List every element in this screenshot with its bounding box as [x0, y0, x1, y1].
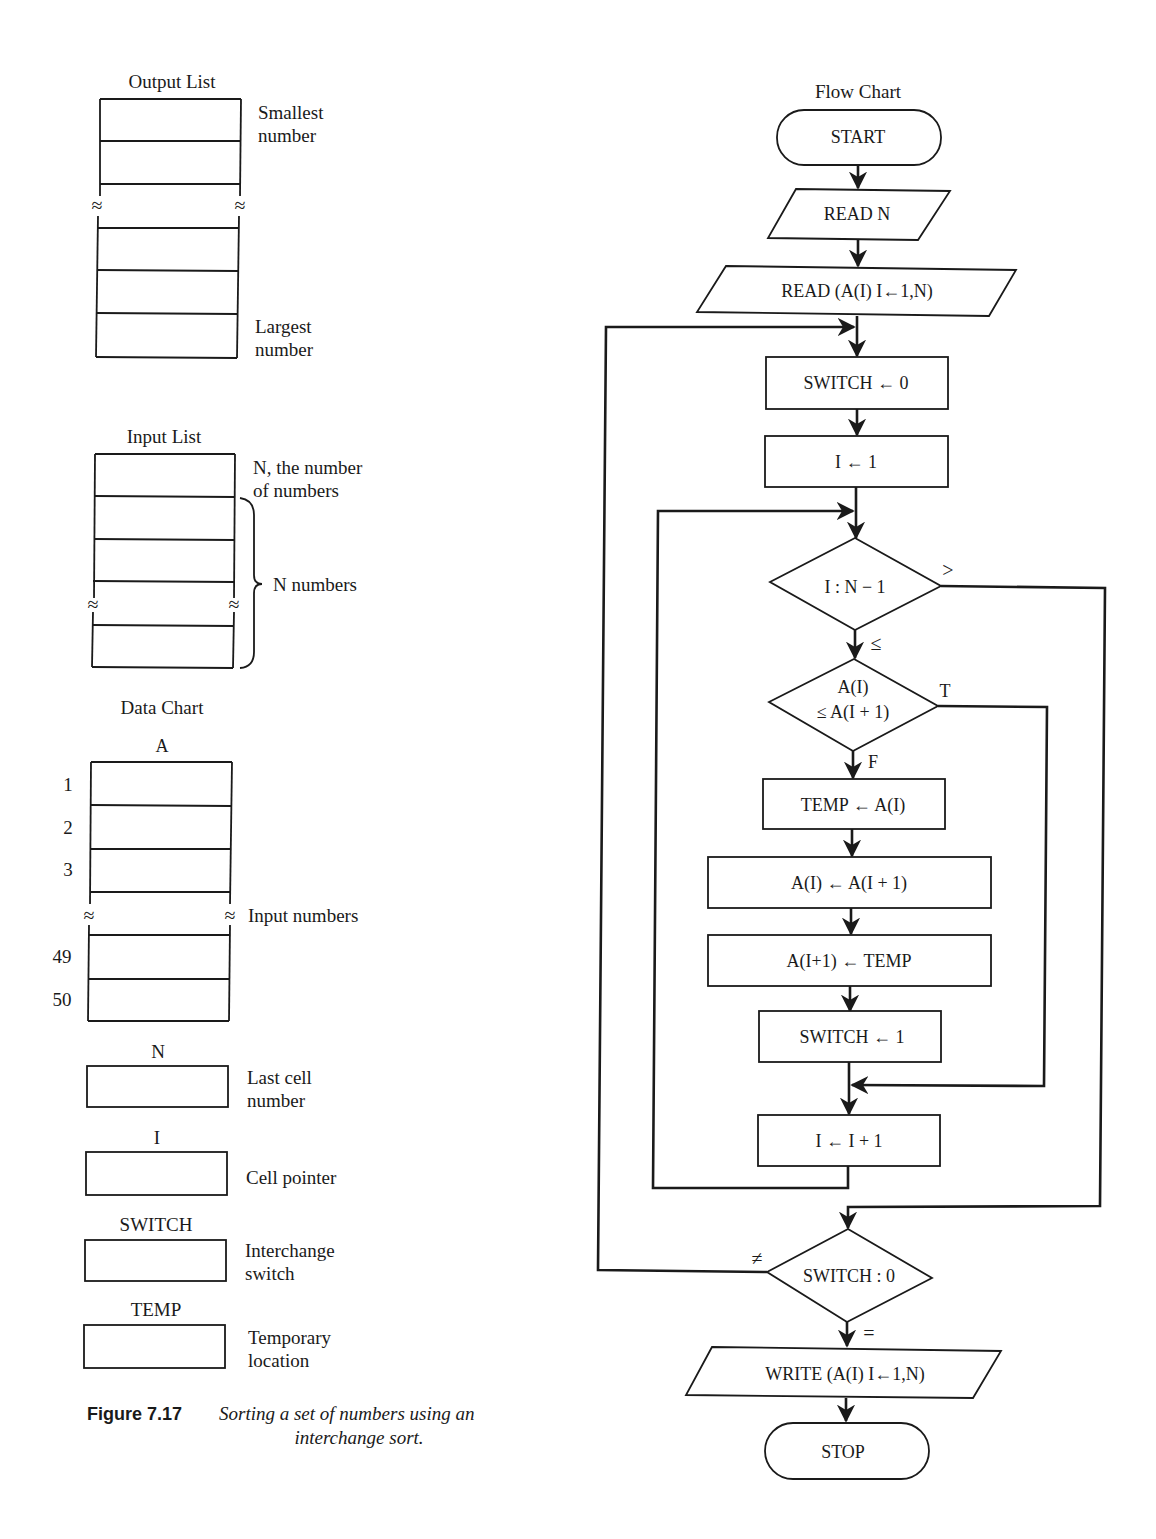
decision-compare-line2: ≤ A(I + 1) [817, 702, 890, 723]
figure-7-17: Output List ≈ ≈ Smallest number Largest … [0, 0, 1156, 1539]
variable-switch-label-line2: switch [245, 1263, 295, 1284]
greater-than-label: > [942, 559, 953, 581]
variable-n-label-line2: number [247, 1090, 306, 1111]
true-label: T [940, 681, 951, 701]
data-chart-title: Data Chart [121, 697, 205, 718]
break-icon: ≈ [235, 194, 246, 216]
equal-label: = [863, 1322, 874, 1344]
input-list-cells [92, 454, 235, 668]
decision-i-vs-n[interactable]: I : N − 1 > ≤ [770, 538, 954, 654]
input-numbers-label: Input numbers [248, 905, 358, 926]
a-next-assign-process[interactable]: A(I+1) ← TEMP [708, 935, 991, 986]
variable-switch-name: SWITCH [120, 1214, 193, 1235]
variable-i-cell [86, 1152, 227, 1195]
read-n-label: READ N [824, 204, 891, 224]
n-label-line2: of numbers [253, 480, 339, 501]
caption-line1: Sorting a set of numbers using an [219, 1403, 474, 1424]
figure-number: Figure 7.17 [87, 1404, 182, 1424]
flow-chart: Flow Chart ST [598, 81, 1105, 1479]
read-array-input[interactable]: READ (A(I) I←1,N) [697, 266, 1016, 316]
variable-i-name: I [154, 1127, 160, 1148]
index-3: 3 [63, 859, 73, 880]
switch-zero-label: SWITCH ← 0 [804, 373, 909, 393]
variable-i-label: Cell pointer [246, 1167, 337, 1188]
flow-chart-title: Flow Chart [815, 81, 902, 102]
figure-caption: Figure 7.17 Sorting a set of numbers usi… [87, 1403, 474, 1448]
decision-i-label: I : N − 1 [824, 577, 885, 597]
switch-one-label: SWITCH ← 1 [800, 1027, 905, 1047]
output-list: Output List ≈ ≈ Smallest number Largest … [92, 71, 325, 360]
i-increment-label: I ← I + 1 [815, 1131, 882, 1151]
variable-n-label-line1: Last cell [247, 1067, 312, 1088]
input-list: Input List ≈ ≈ N, the number of numbers … [88, 426, 363, 668]
write-array-label: WRITE (A(I) I←1,N) [765, 1364, 924, 1385]
index-2: 2 [63, 817, 73, 838]
variable-switch-label-line1: Interchange [245, 1240, 335, 1261]
variable-switch: SWITCH Interchange switch [85, 1214, 335, 1284]
largest-label-line1: Largest [255, 316, 312, 337]
not-equal-label: ≠ [752, 1247, 763, 1269]
decision-compare-line1: A(I) [838, 677, 869, 698]
i-one-label: I ← 1 [835, 452, 877, 472]
a-next-assign-label: A(I+1) ← TEMP [787, 951, 912, 972]
caption-line2: interchange sort. [294, 1427, 423, 1448]
stop-terminal[interactable]: STOP [765, 1423, 929, 1479]
variable-switch-cell [85, 1240, 226, 1281]
decision-compare[interactable]: A(I) ≤ A(I + 1) T F [769, 659, 951, 772]
read-array-label: READ (A(I) I←1,N) [781, 281, 932, 302]
index-50: 50 [53, 989, 72, 1010]
break-icon: ≈ [92, 194, 103, 216]
input-list-title: Input List [127, 426, 202, 447]
array-a-cells [88, 762, 232, 1021]
smallest-label-line2: number [258, 125, 317, 146]
array-a-label: A [156, 736, 169, 756]
variable-i: I Cell pointer [86, 1127, 337, 1195]
temp-assign-label: TEMP ← A(I) [801, 795, 905, 816]
largest-label-line2: number [255, 339, 314, 360]
variable-n: N Last cell number [87, 1041, 312, 1111]
variable-n-cell [87, 1066, 228, 1107]
i-one-process[interactable]: I ← 1 [765, 436, 948, 487]
n-numbers-label: N numbers [273, 574, 357, 595]
variable-temp-name: TEMP [131, 1299, 182, 1320]
switch-zero-process[interactable]: SWITCH ← 0 [766, 357, 948, 409]
decision-switch[interactable]: SWITCH : 0 ≠ = [752, 1229, 932, 1344]
decision-switch-label: SWITCH : 0 [803, 1266, 895, 1286]
less-equal-label: ≤ [871, 632, 882, 654]
variable-temp-cell [84, 1325, 225, 1368]
false-label: F [868, 752, 878, 772]
output-list-title: Output List [128, 71, 216, 92]
break-icon: ≈ [84, 904, 95, 926]
stop-label: STOP [821, 1442, 865, 1462]
variable-n-name: N [151, 1041, 165, 1062]
variable-temp-label-line1: Temporary [248, 1327, 332, 1348]
index-1: 1 [63, 774, 73, 795]
break-icon: ≈ [229, 593, 240, 615]
output-list-cells [96, 99, 241, 358]
break-icon: ≈ [88, 593, 99, 615]
start-label: START [831, 127, 885, 147]
start-terminal[interactable]: START [777, 110, 941, 165]
data-chart: Data Chart A 1 2 3 49 50 ≈ ≈ Input numbe… [53, 697, 359, 1371]
read-n-input[interactable]: READ N [768, 189, 950, 240]
temp-assign-process[interactable]: TEMP ← A(I) [763, 779, 945, 829]
a-assign-label: A(I) ← A(I + 1) [791, 873, 907, 894]
break-icon: ≈ [225, 904, 236, 926]
index-49: 49 [53, 946, 72, 967]
n-label-line1: N, the number [253, 457, 363, 478]
write-array-output[interactable]: WRITE (A(I) I←1,N) [686, 1347, 1001, 1398]
i-increment-process[interactable]: I ← I + 1 [758, 1115, 940, 1166]
variable-temp: TEMP Temporary location [84, 1299, 332, 1371]
brace-icon [240, 498, 262, 668]
a-assign-process[interactable]: A(I) ← A(I + 1) [708, 857, 991, 908]
switch-one-process[interactable]: SWITCH ← 1 [759, 1011, 941, 1062]
variable-temp-label-line2: location [248, 1350, 310, 1371]
smallest-label-line1: Smallest [258, 102, 324, 123]
